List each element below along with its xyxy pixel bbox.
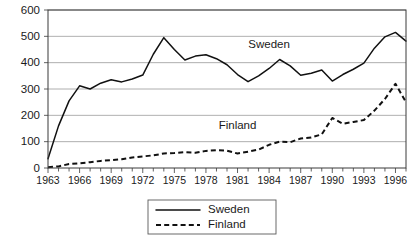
- annotation-finland: Finland: [219, 119, 257, 131]
- x-tick-label: 1969: [99, 174, 123, 186]
- legend-label-sweden: Sweden: [208, 203, 250, 215]
- x-tick-label: 1963: [36, 174, 60, 186]
- gridlines: [44, 10, 406, 168]
- y-tick-label: 300: [21, 83, 40, 95]
- x-tick-label: 1972: [131, 174, 155, 186]
- y-tick-label: 400: [21, 56, 40, 68]
- y-tick-label: 500: [21, 30, 40, 42]
- y-tick-label: 0: [34, 162, 40, 174]
- x-tick-label: 1978: [194, 174, 218, 186]
- x-tick-label: 1975: [163, 174, 187, 186]
- x-tick-label: 1987: [289, 174, 313, 186]
- series-line-sweden: [48, 32, 406, 158]
- line-chart: 0100200300400500600 19631966196919721975…: [0, 0, 418, 243]
- y-tick-label: 600: [21, 4, 40, 16]
- y-tick-label: 200: [21, 109, 40, 121]
- annotation-sweden: Sweden: [248, 38, 290, 50]
- y-tick-label: 100: [21, 135, 40, 147]
- x-axis-tick-marks: [48, 168, 406, 173]
- x-tick-label: 1993: [352, 174, 376, 186]
- legend-label-finland: Finland: [208, 218, 246, 230]
- x-axis-tick-labels: 1963196619691972197519781981198419871990…: [36, 174, 407, 186]
- data-series: [48, 32, 406, 167]
- x-tick-label: 1996: [384, 174, 408, 186]
- x-tick-label: 1990: [321, 174, 345, 186]
- x-tick-label: 1984: [257, 174, 281, 186]
- chart-legend: SwedenFinland: [148, 200, 276, 234]
- chart-canvas: 0100200300400500600 19631966196919721975…: [0, 0, 418, 243]
- x-tick-label: 1966: [68, 174, 92, 186]
- series-annotations: SwedenFinland: [219, 38, 290, 131]
- x-tick-label: 1981: [226, 174, 250, 186]
- y-axis-tick-labels: 0100200300400500600: [21, 4, 40, 174]
